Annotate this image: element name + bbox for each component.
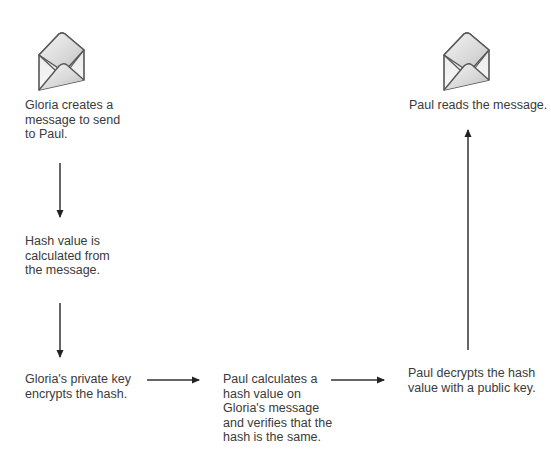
text-line: Gloria's private key [25,372,131,387]
step-encrypt-text: Gloria's private key encrypts the hash. [25,372,131,401]
envelope-icon [37,32,87,92]
text-line: Gloria's message [223,401,332,416]
text-line: Paul reads the message. [409,98,547,113]
text-line: to Paul. [25,127,120,142]
step-create-text: Gloria creates a message to send to Paul… [25,98,120,142]
envelope-icon [442,32,492,92]
step-decrypt-text: Paul decrypts the hash value with a publ… [408,366,536,395]
text-line: hash value on [223,387,332,402]
text-line: message to send [25,113,120,128]
text-line: Paul calculates a [223,372,332,387]
text-line: Gloria creates a [25,98,120,113]
text-line: encrypts the hash. [25,387,131,402]
text-line: hash is the same. [223,430,332,445]
step-read-text: Paul reads the message. [409,98,547,113]
step-hash-text: Hash value is calculated from the messag… [25,234,110,278]
text-line: and verifies that the [223,416,332,431]
text-line: value with a public key. [408,381,536,396]
text-line: calculated from [25,249,110,264]
text-line: Paul decrypts the hash [408,366,536,381]
text-line: the message. [25,263,110,278]
text-line: Hash value is [25,234,110,249]
step-verify-text: Paul calculates a hash value on Gloria's… [223,372,332,445]
